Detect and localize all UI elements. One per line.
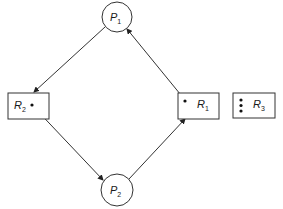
r2-letter: R xyxy=(14,99,22,111)
r3-sub: 3 xyxy=(261,105,265,112)
r3-letter: R xyxy=(253,98,261,110)
p2-sub: 2 xyxy=(117,191,121,198)
process-p2: P2 xyxy=(101,174,133,206)
p1-sub: 1 xyxy=(117,18,121,25)
r1-letter: R xyxy=(197,98,205,110)
instance-dot xyxy=(30,103,33,106)
instance-dot xyxy=(239,109,242,112)
edge-p2-to-r1 xyxy=(129,119,185,179)
process-p1: P1 xyxy=(102,2,132,32)
edge-r1-to-p1 xyxy=(127,29,185,100)
edge-p1-to-r2 xyxy=(34,27,105,92)
r1-sub: 1 xyxy=(205,105,209,112)
resource-r2: R2 xyxy=(8,93,49,119)
instance-dot xyxy=(183,99,186,102)
resource-r3: R3 xyxy=(233,93,275,118)
r2-sub: 2 xyxy=(22,106,26,113)
instance-dot xyxy=(239,104,242,107)
resource-r1: R1 xyxy=(178,93,219,119)
resource-allocation-graph: P1 P2 R2 R1 R3 xyxy=(0,0,283,209)
instance-dot xyxy=(239,98,242,101)
